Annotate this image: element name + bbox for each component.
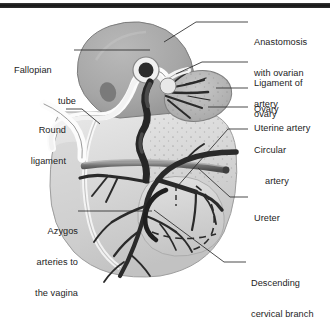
anastomosis-with-ovarian-artery: [133, 57, 159, 83]
label-round-ligament: Round ligament: [4, 104, 66, 177]
scan-artifact-bar: [0, 3, 330, 8]
label-azygos-arteries: Azygos arteries to the vagina: [8, 205, 78, 309]
label-ureter: Ureter: [254, 192, 330, 234]
label-circular-artery: Circular artery: [254, 124, 330, 197]
label-descending-cervical-branch: Descending cervical branch: [251, 257, 330, 321]
